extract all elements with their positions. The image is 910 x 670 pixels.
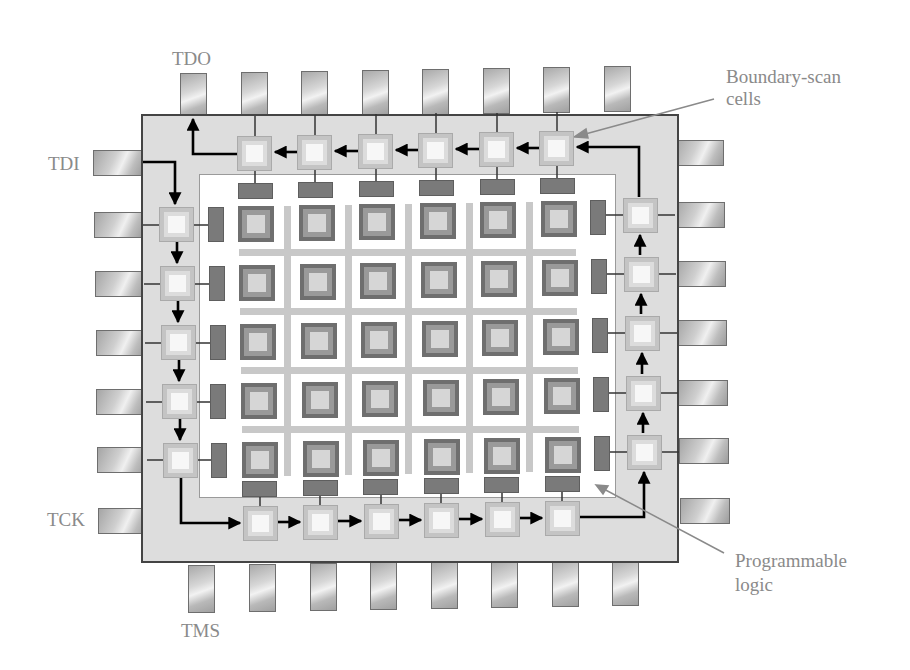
- boundary-scan-cell: [364, 504, 399, 539]
- boundary-scan-callout-line2: cells: [726, 88, 761, 110]
- boundary-scan-cell: [243, 506, 278, 541]
- pin-connector-lines: [143, 112, 679, 506]
- boundary-scan-cell: [237, 136, 272, 171]
- tdo-label: TDO: [172, 48, 211, 70]
- boundary-scan-cell: [303, 505, 338, 540]
- programmable-logic-callout-line1: Programmable: [735, 550, 847, 572]
- boundary-scan-callout-line1: Boundary-scan: [726, 66, 841, 88]
- boundary-scan-diagram: TDO TDI TCK TMS Boundary-scan cells Prog…: [0, 0, 910, 670]
- boundary-scan-cell: [625, 316, 660, 351]
- boundary-scan-cell: [163, 443, 198, 478]
- boundary-scan-cell: [545, 501, 580, 536]
- boundary-scan-cell: [418, 133, 453, 168]
- boundary-scan-cell: [624, 257, 659, 292]
- boundary-scan-cell: [160, 266, 195, 301]
- boundary-scan-cell: [358, 134, 393, 169]
- programmable-logic-callout-line2: logic: [735, 574, 773, 596]
- boundary-scan-cell: [626, 376, 661, 411]
- boundary-scan-cell: [162, 384, 197, 419]
- boundary-scan-cell: [297, 135, 332, 170]
- boundary-scan-cell: [161, 325, 196, 360]
- boundary-scan-cell: [424, 503, 459, 538]
- tck-label: TCK: [47, 509, 85, 531]
- boundary-scan-cell: [627, 435, 662, 470]
- boundary-scan-cell: [479, 132, 514, 167]
- boundary-scan-cell: [159, 207, 194, 242]
- tdi-label: TDI: [48, 153, 80, 175]
- boundary-scan-cell: [485, 502, 520, 537]
- tms-label: TMS: [181, 620, 220, 642]
- boundary-scan-cell: [539, 131, 574, 166]
- boundary-scan-cell: [623, 198, 658, 233]
- scan-path: [143, 119, 644, 523]
